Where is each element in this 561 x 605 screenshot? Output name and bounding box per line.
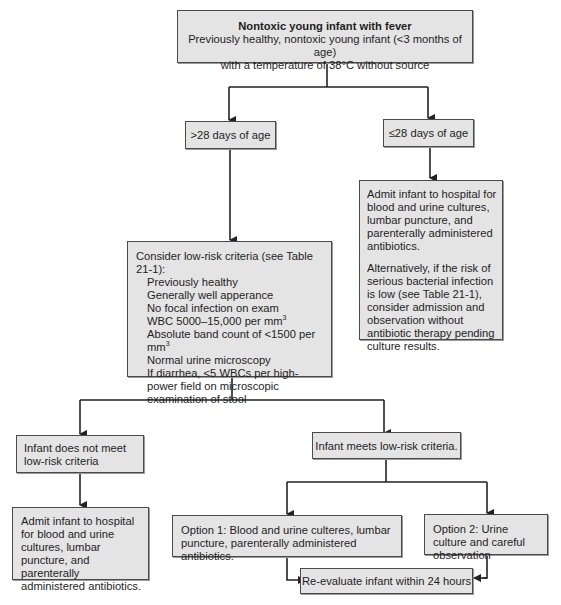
not-low-risk-action-node: Admit infant to hospital for blood and u… bbox=[12, 507, 149, 580]
not-low-risk-action-label: Admit infant to hospital for blood and u… bbox=[21, 515, 141, 592]
younger-action-para1: Admit infant to hospital for blood and u… bbox=[367, 188, 499, 253]
low-risk-node: Infant meets low-risk criteria. bbox=[312, 432, 461, 459]
low-risk-criteria-node: Consider low-risk criteria (see Table 21… bbox=[127, 241, 332, 377]
criteria-item: Generally well apperance bbox=[136, 289, 328, 302]
younger-action-para2: Alternatively, if the risk of serious ba… bbox=[367, 262, 499, 353]
criteria-item: If diarrhea, <5 WBCs per high-power fiel… bbox=[136, 367, 307, 406]
option1-label: Option 1: Blood and urine culteres, lumb… bbox=[181, 524, 391, 562]
criteria-item: Previously healthy bbox=[136, 276, 328, 289]
criteria-heading: Consider low-risk criteria (see Table 21… bbox=[136, 250, 328, 276]
younger-node-label: ≤28 days of age bbox=[389, 127, 469, 139]
criteria-item: Absolute band count of <1500 per mm3 bbox=[136, 328, 328, 354]
start-node-line1: Previously healthy, nontoxic young infan… bbox=[178, 33, 472, 59]
older-node-label: >28 days of age bbox=[191, 129, 271, 141]
younger-than-28-days-node: ≤28 days of age bbox=[383, 119, 474, 147]
criteria-item: WBC 5000–15,000 per mm3 bbox=[136, 315, 328, 328]
older-than-28-days-node: >28 days of age bbox=[185, 121, 276, 149]
start-node-line2: with a temperature of 38°C without sourc… bbox=[178, 59, 472, 72]
reevaluate-node: Re-evaluate infant within 24 hours bbox=[300, 568, 473, 594]
younger-action-node: Admit infant to hospital for blood and u… bbox=[359, 180, 503, 340]
low-risk-label: Infant meets low-risk criteria. bbox=[315, 440, 457, 452]
reevaluate-label: Re-evaluate infant within 24 hours bbox=[302, 575, 471, 587]
not-low-risk-label: Infant does not meet low-risk criteria bbox=[24, 442, 126, 467]
criteria-item: No focal infection on exam bbox=[136, 302, 328, 315]
option2-node: Option 2: Urine culture and careful obse… bbox=[424, 514, 548, 555]
start-node: Nontoxic young infant with fever Previou… bbox=[177, 10, 473, 63]
not-low-risk-node: Infant does not meet low-risk criteria bbox=[16, 435, 144, 473]
option1-node: Option 1: Blood and urine culteres, lumb… bbox=[172, 515, 402, 557]
criteria-item: Normal urine microscopy bbox=[136, 354, 328, 367]
start-node-title: Nontoxic young infant with fever bbox=[178, 20, 472, 33]
